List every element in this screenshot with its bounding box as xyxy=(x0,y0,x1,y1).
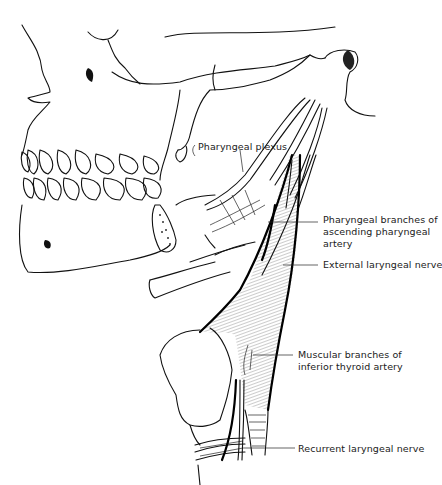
label-pharyngeal-branches-line1: Pharyngeal branches of xyxy=(323,214,438,225)
label-pharyngeal-branches-line3: artery xyxy=(323,238,352,249)
mandible xyxy=(20,195,245,298)
label-external-laryngeal-nerve: External laryngeal nerve xyxy=(323,259,442,270)
label-muscular-branches-line1: Muscular branches of xyxy=(298,349,402,360)
label-muscular-branches-line2: inferior thyroid artery xyxy=(298,361,403,372)
label-pharyngeal-branches-line2: ascending pharyngeal xyxy=(323,226,430,237)
label-pharyngeal-plexus: Pharyngeal plexus xyxy=(198,141,287,152)
teeth xyxy=(21,150,161,200)
label-recurrent-laryngeal-nerve: Recurrent laryngeal nerve xyxy=(298,443,424,454)
constrictor-muscle xyxy=(200,155,300,410)
